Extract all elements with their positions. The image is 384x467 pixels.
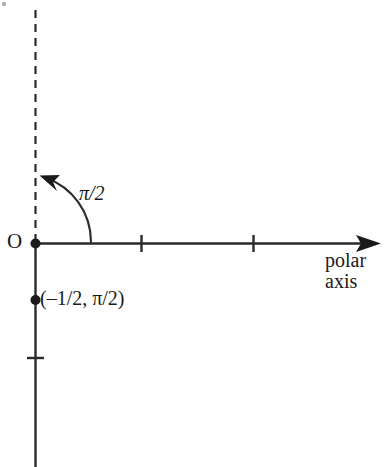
- angle-label: π/2: [79, 183, 105, 204]
- polar-axis-label-line1: polar: [325, 250, 366, 271]
- scan-speck-artifact: [2, 2, 6, 6]
- origin-label: O: [7, 230, 22, 252]
- polar-axis-label-line2: axis: [325, 271, 366, 292]
- diagram-canvas: [0, 0, 384, 467]
- origin-dot: [31, 239, 41, 249]
- polar-axis-label: polar axis: [325, 250, 366, 292]
- polar-coordinate-figure: O π/2 (–1/2, π/2) polar axis: [0, 0, 384, 467]
- point-coordinate-label: (–1/2, π/2): [40, 288, 125, 309]
- plotted-point-dot: [31, 295, 41, 305]
